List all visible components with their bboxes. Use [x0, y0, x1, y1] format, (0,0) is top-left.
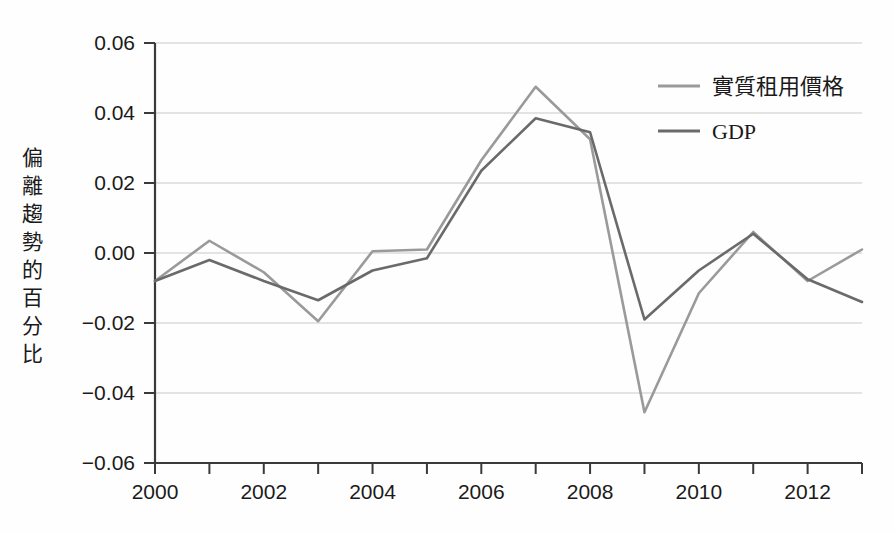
y-axis-label-char: 分 [22, 314, 43, 338]
y-tick-label: −0.06 [82, 451, 135, 474]
y-tick-label: 0.00 [94, 241, 135, 264]
y-axis-label-char: 比 [22, 342, 43, 366]
y-axis-label-char: 的 [22, 258, 43, 282]
y-tick-label: −0.02 [82, 311, 135, 334]
y-axis-tick-labels: 0.060.040.020.00−0.02−0.04−0.06 [82, 31, 135, 474]
chart-figure: 0.060.040.020.00−0.02−0.04−0.06 20002002… [0, 0, 894, 533]
legend: 實質租用價格GDP [658, 74, 844, 144]
legend-label: 實質租用價格 [712, 74, 844, 99]
x-axis-tick-marks [155, 463, 862, 474]
y-axis-label-char: 離 [22, 174, 43, 198]
y-axis-label-char: 勢 [22, 230, 43, 254]
y-axis-tick-marks [144, 43, 155, 463]
x-tick-label: 2006 [458, 480, 505, 503]
legend-label: GDP [712, 119, 756, 144]
x-tick-label: 2002 [240, 480, 287, 503]
y-tick-label: −0.04 [82, 381, 135, 404]
x-tick-label: 2010 [675, 480, 722, 503]
series-line [155, 118, 862, 319]
line-chart: 0.060.040.020.00−0.02−0.04−0.06 20002002… [0, 0, 894, 533]
y-tick-label: 0.04 [94, 101, 135, 124]
x-tick-label: 2012 [784, 480, 831, 503]
x-tick-label: 2004 [349, 480, 396, 503]
gridlines-group [155, 43, 862, 463]
y-axis-label: 偏離趨勢的百分比 [22, 146, 43, 366]
x-axis-tick-labels: 2000200220042006200820102012 [132, 480, 831, 503]
y-tick-label: 0.06 [94, 31, 135, 54]
y-axis-label-char: 趨 [22, 202, 43, 226]
x-tick-label: 2008 [567, 480, 614, 503]
y-axis-label-char: 百 [22, 286, 43, 310]
x-tick-label: 2000 [132, 480, 179, 503]
y-tick-label: 0.02 [94, 171, 135, 194]
y-axis-label-char: 偏 [22, 146, 43, 170]
